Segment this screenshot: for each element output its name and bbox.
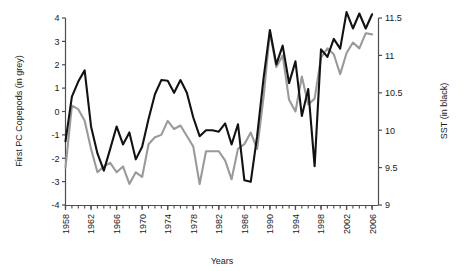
y-axis-left-title: First PC Copepods (in grey) <box>14 55 24 167</box>
x-axis-tick-label: 2006 <box>368 214 378 234</box>
y-axis-right-tick-label: 11 <box>385 51 394 61</box>
line-chart: 43210-1-2-3-4 11.51110.5109.59 195819621… <box>0 0 469 271</box>
x-axis-tick-label: 1970 <box>138 214 148 234</box>
y-axis-left-tick-label: 1 <box>54 83 59 93</box>
chart-figure: 43210-1-2-3-4 11.51110.5109.59 195819621… <box>0 0 469 271</box>
x-axis-tick-label: 1982 <box>214 214 224 234</box>
x-axis-tick-label: 1994 <box>291 214 301 234</box>
x-axis-tick-label: 1978 <box>189 214 199 234</box>
x-axis-tick-label: 1974 <box>163 214 173 234</box>
y-axis-left-tick-label: -4 <box>51 200 59 210</box>
y-axis-left-tick-label: 2 <box>54 60 59 70</box>
y-axis-left-tick-label: -1 <box>51 130 59 140</box>
y-axis-right-tick-label: 10 <box>385 126 395 136</box>
x-axis-tick-label: 1962 <box>86 214 96 234</box>
y-axis-right-tick-label: 10.5 <box>385 88 403 98</box>
y-axis-right-tick-label: 9.5 <box>385 163 398 173</box>
y-axis-left-tick-label: 0 <box>54 107 59 117</box>
y-axis-left-tick-label: 4 <box>54 13 59 23</box>
x-axis-tick-label: 1986 <box>240 214 250 234</box>
x-axis-tick-label: 1958 <box>61 214 71 234</box>
x-axis-tick-label: 1990 <box>265 214 275 234</box>
x-axis-title: Years <box>211 256 234 266</box>
y-axis-right-tick-label: 9 <box>385 200 390 210</box>
x-axis-tick-label: 2002 <box>342 214 352 234</box>
y-axis-left-tick-label: -2 <box>51 154 59 164</box>
x-axis-tick-label: 1998 <box>316 214 326 234</box>
y-axis-left-tick-label: -3 <box>51 177 59 187</box>
y-axis-right-tick-label: 11.5 <box>385 13 402 23</box>
x-axis-tick-label: 1966 <box>112 214 122 234</box>
y-axis-left-tick-label: 3 <box>54 37 59 47</box>
y-axis-right-title: SST (in black) <box>439 83 449 139</box>
